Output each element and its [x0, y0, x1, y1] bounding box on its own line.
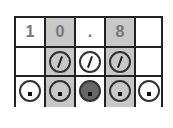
slash-icon	[117, 56, 123, 68]
dot-bubble-col-0[interactable]	[15, 76, 45, 106]
dot-icon	[28, 92, 32, 96]
slash-bubble-col-3[interactable]	[105, 47, 135, 76]
slash-bubble-col-1[interactable]	[45, 47, 75, 76]
dot-bubble-col-1[interactable]	[45, 76, 75, 106]
answer-digit: 0	[45, 18, 75, 46]
dot-bubble-col-4[interactable]	[134, 76, 164, 106]
slash-bubble-col-2[interactable]	[75, 47, 105, 76]
slash-icon	[57, 56, 63, 68]
answer-digit	[135, 18, 165, 46]
dot-icon	[88, 92, 92, 96]
dot-icon	[58, 92, 62, 96]
answer-digit: .	[75, 18, 105, 46]
dot-icon	[147, 92, 151, 96]
answer-digit: 8	[105, 18, 135, 46]
dot-icon	[118, 92, 122, 96]
grid-in-answer: 1 0 . 8	[14, 16, 163, 107]
slash-icon	[87, 56, 93, 68]
dot-bubble-col-3[interactable]	[105, 76, 135, 106]
dot-bubble-col-2-filled[interactable]	[75, 76, 105, 106]
answer-digit: 1	[15, 18, 45, 46]
